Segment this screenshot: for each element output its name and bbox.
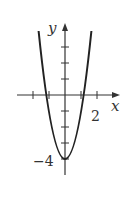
y-axis-label: y [47, 19, 57, 37]
y-tick-label-minus-4: −4 [33, 153, 54, 169]
x-axis-label: x [111, 97, 120, 115]
y-axis [62, 23, 68, 175]
x-tick-label-2: 2 [91, 108, 100, 124]
x-axis [17, 92, 120, 98]
parabola-graph: y x 2 −4 [0, 0, 130, 218]
